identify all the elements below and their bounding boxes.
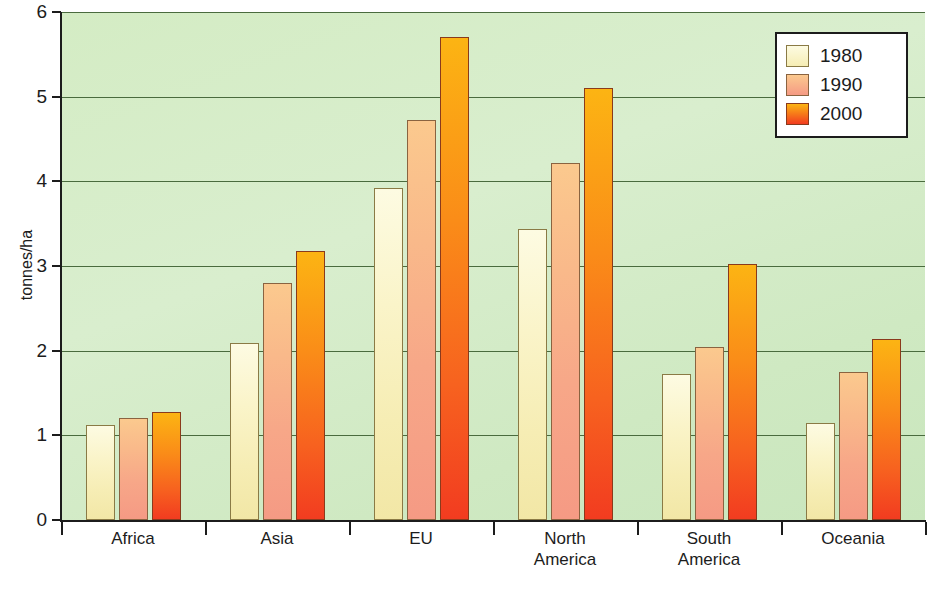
y-axis-title: tonnes/ha xyxy=(18,205,36,325)
y-axis-tick-label: 0 xyxy=(17,510,47,529)
y-axis-tick-label: 6 xyxy=(17,2,47,21)
gridline xyxy=(61,12,925,13)
gridline xyxy=(61,351,925,352)
x-axis-label: Africa xyxy=(61,528,205,549)
gridline xyxy=(61,266,925,267)
x-axis-label: South America xyxy=(637,528,781,570)
bar-1990-5 xyxy=(839,372,868,520)
bar-1980-5 xyxy=(806,423,835,520)
bar-1990-4 xyxy=(695,347,724,520)
x-axis-label: North America xyxy=(493,528,637,570)
x-axis-tick xyxy=(925,522,927,535)
bar-2000-0 xyxy=(152,412,181,520)
y-axis-tick-label: 4 xyxy=(17,171,47,190)
legend-label-2000: 2000 xyxy=(820,104,862,123)
y-axis-line xyxy=(60,12,62,522)
legend-item-2000: 2000 xyxy=(786,99,897,128)
bar-1980-0 xyxy=(86,425,115,520)
bar-1990-1 xyxy=(263,283,292,520)
bar-1990-3 xyxy=(551,163,580,520)
bar-2000-2 xyxy=(440,37,469,520)
x-axis-label: EU xyxy=(349,528,493,549)
x-axis-label: Asia xyxy=(205,528,349,549)
legend-item-1990: 1990 xyxy=(786,70,897,99)
legend-item-1980: 1980 xyxy=(786,41,897,70)
legend: 1980 1990 2000 xyxy=(775,32,908,138)
bar-2000-4 xyxy=(728,264,757,520)
gridline xyxy=(61,181,925,182)
bar-1980-2 xyxy=(374,188,403,520)
bar-1980-3 xyxy=(518,229,547,520)
bar-chart-figure: 0123456 tonnes/ha AfricaAsiaEUNorth Amer… xyxy=(0,0,941,589)
bar-1980-4 xyxy=(662,374,691,520)
x-axis-label: Oceania xyxy=(781,528,925,549)
legend-swatch-2000 xyxy=(786,103,809,125)
y-axis-tick-label: 2 xyxy=(17,341,47,360)
bar-1980-1 xyxy=(230,343,259,520)
gridline xyxy=(61,435,925,436)
y-axis-tick-label: 1 xyxy=(17,425,47,444)
bar-2000-1 xyxy=(296,251,325,520)
legend-swatch-1980 xyxy=(786,45,809,67)
bar-2000-5 xyxy=(872,339,901,520)
bar-2000-3 xyxy=(584,88,613,520)
bar-1990-2 xyxy=(407,120,436,520)
legend-swatch-1990 xyxy=(786,74,809,96)
legend-label-1980: 1980 xyxy=(820,46,862,65)
bar-1990-0 xyxy=(119,418,148,520)
legend-label-1990: 1990 xyxy=(820,75,862,94)
y-axis-tick-label: 5 xyxy=(17,87,47,106)
